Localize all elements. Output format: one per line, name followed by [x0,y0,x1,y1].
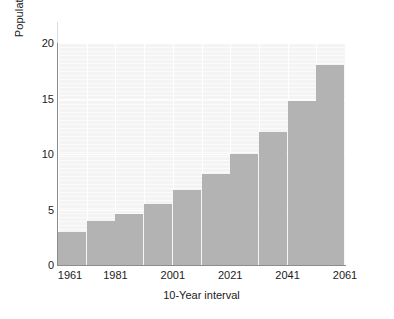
x-tick-label: 2061 [333,269,357,281]
y-tick-label: 20 [24,38,54,49]
x-tick-label: 1961 [58,269,82,281]
x-axis-spine [57,265,346,266]
x-tick-label: 2001 [161,269,185,281]
y-tick-label: 10 [24,149,54,160]
x-tick-label: 2021 [218,269,242,281]
x-axis-title: 10-Year interval [58,289,345,301]
bar [87,221,115,265]
y-tick-label: 0 [24,260,54,271]
x-axis-tick-labels: 196119812001202120412061 [58,269,345,285]
bar [230,154,258,265]
x-tick-label: 2041 [275,269,299,281]
bar [144,204,172,265]
plot-area [58,43,345,265]
x-tick-label: 1981 [103,269,127,281]
bar-chart: Population in billions 05101520 19611981… [0,0,394,319]
y-tick-label: 15 [24,94,54,105]
bar [288,101,316,265]
bars-layer [58,43,345,265]
bar [173,190,201,265]
y-axis-tick-labels: 05101520 [24,38,54,266]
bar [202,174,230,265]
bar [115,214,143,265]
bar [316,65,344,265]
bar [259,132,287,265]
bar [58,232,86,265]
y-tick-label: 5 [24,205,54,216]
